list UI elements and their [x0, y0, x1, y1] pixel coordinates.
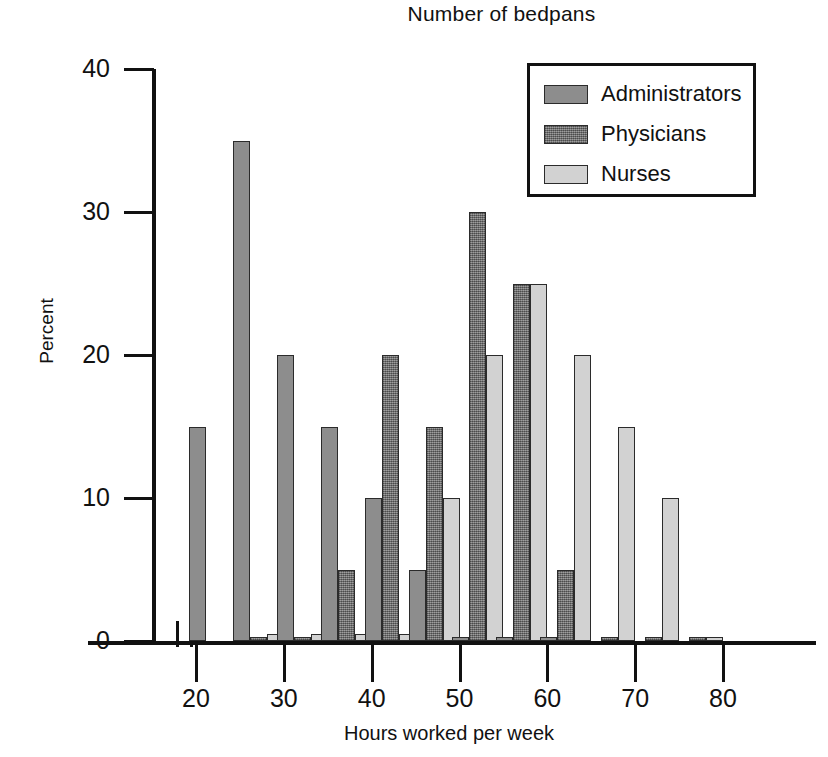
- bar: [250, 637, 267, 641]
- bar: [706, 637, 723, 641]
- bar: [443, 498, 460, 641]
- bar: [645, 637, 662, 641]
- legend-item[interactable]: Physicians: [544, 123, 706, 145]
- bar: [486, 355, 503, 641]
- legend-item[interactable]: Nurses: [544, 163, 671, 185]
- bar: [530, 284, 547, 642]
- bar: [574, 355, 591, 641]
- bar: [557, 570, 574, 642]
- legend-item-label: Nurses: [601, 163, 671, 185]
- chart-legend: AdministratorsPhysiciansNurses: [527, 63, 756, 197]
- bar: [689, 637, 706, 641]
- bar: [426, 427, 443, 642]
- legend-swatch-icon: [544, 125, 588, 144]
- legend-item[interactable]: Administrators: [544, 83, 742, 105]
- bar: [496, 637, 513, 641]
- bar: [365, 498, 382, 641]
- bar: [233, 141, 250, 642]
- legend-item-label: Physicians: [601, 123, 706, 145]
- bar: [338, 570, 355, 642]
- bar: [294, 637, 311, 641]
- bar: [513, 284, 530, 642]
- bar: [277, 355, 294, 641]
- legend-swatch-icon: [544, 85, 588, 104]
- bar: [189, 427, 206, 642]
- plot-area: 010203040 20304050607080 Percent Hours w…: [0, 0, 828, 757]
- bar: [469, 212, 486, 641]
- legend-swatch-icon: [544, 165, 588, 184]
- bar: [382, 355, 399, 641]
- bar: [452, 637, 469, 641]
- legend-item-label: Administrators: [601, 83, 742, 105]
- bar: [601, 637, 618, 641]
- bar: [618, 427, 635, 642]
- bar: [321, 427, 338, 642]
- bar: [409, 570, 426, 642]
- bar: [662, 498, 679, 641]
- bar: [540, 637, 557, 641]
